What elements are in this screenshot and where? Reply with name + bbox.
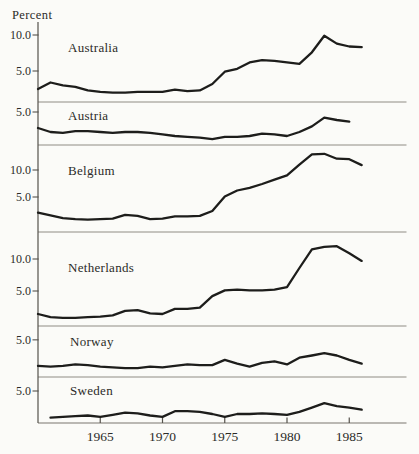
country-label-netherlands: Netherlands: [68, 260, 134, 275]
country-label-austria: Austria: [68, 108, 108, 123]
y-tick-label-australia-10.0: 10.0: [10, 28, 31, 42]
series-line-norway: [38, 353, 362, 368]
y-tick-label-australia-5.0: 5.0: [16, 64, 31, 78]
y-tick-label-belgium-5.0: 5.0: [16, 190, 31, 204]
series-line-netherlands: [38, 246, 362, 318]
y-tick-label-sweden-5.0: 5.0: [16, 384, 31, 398]
x-tick-label-1970: 1970: [149, 429, 176, 444]
x-tick-label-1985: 1985: [336, 429, 363, 444]
country-label-belgium: Belgium: [68, 163, 115, 178]
y-tick-label-netherlands-5.0: 5.0: [16, 284, 31, 298]
y-tick-label-austria-5.0: 5.0: [16, 105, 31, 119]
y-axis-title: Percent: [12, 8, 52, 23]
x-tick-label-1965: 1965: [87, 429, 114, 444]
x-tick-label-1980: 1980: [274, 429, 301, 444]
unemployment-multipanel-chart: 1965197019751980198510.05.0Australia5.0A…: [0, 0, 419, 454]
country-label-australia: Australia: [68, 40, 118, 55]
series-line-sweden: [51, 403, 362, 417]
x-tick-label-1975: 1975: [211, 429, 238, 444]
country-label-norway: Norway: [70, 334, 114, 349]
country-label-sweden: Sweden: [70, 383, 113, 398]
y-tick-label-norway-5.0: 5.0: [16, 333, 31, 347]
unemployment-figure: Percent 1965197019751980198510.05.0Austr…: [0, 0, 419, 454]
y-tick-label-belgium-10.0: 10.0: [10, 163, 31, 177]
y-tick-label-netherlands-10.0: 10.0: [10, 252, 31, 266]
